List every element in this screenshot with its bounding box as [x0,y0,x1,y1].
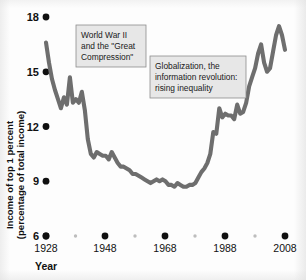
annotation-globalization-line2: information revolution: [155,72,237,82]
y-axis-title-line1: Income of top 1 percent [4,120,15,229]
x-minor-dot-1958 [133,234,136,237]
y-tick-label-12: 12 [27,121,39,133]
y-tick-label-9: 9 [33,175,39,187]
y-tick-dot-9 [43,178,50,185]
annotation-wwii: World War II and the "Great Compression" [76,25,146,67]
x-tick-dot-1928 [43,233,50,240]
income-share-line-chart: 18 15 12 9 6 1928 1948 1968 1988 2008 In… [0,0,306,280]
y-tick-label-6: 6 [33,230,39,242]
annotation-globalization: Globalization, the information revolutio… [150,56,246,98]
y-tick-label-15: 15 [27,66,39,78]
x-tick-label-2008: 2008 [273,242,297,254]
x-minor-dot-1998 [253,234,256,237]
x-axis-title: Year [35,260,57,272]
annotation-globalization-line1: Globalization, the [155,61,220,71]
x-tick-label-1988: 1988 [213,242,237,254]
y-axis-title: Income of top 1 percent (percentage of t… [4,111,26,239]
x-tick-dot-1988 [222,233,229,240]
x-minor-dot-1978 [193,234,196,237]
annotation-wwii-line2: and the "Great [81,41,136,51]
annotation-wwii-line3: Compression" [81,52,133,62]
x-tick-label-1968: 1968 [153,242,177,254]
x-tick-label-1928: 1928 [34,242,58,254]
y-tick-dot-12 [43,123,50,130]
x-tick-dot-1948 [102,233,109,240]
x-minor-dot-1938 [74,234,77,237]
chart-figure: 18 15 12 9 6 1928 1948 1968 1988 2008 In… [0,0,306,280]
annotation-wwii-line1: World War II [81,30,127,40]
x-axis-ticks: 1928 1948 1968 1988 2008 [34,233,297,254]
y-tick-label-18: 18 [27,11,39,23]
x-tick-dot-2008 [282,233,289,240]
y-tick-dot-18 [43,14,50,21]
y-axis-title-line2: (percentage of total income) [15,111,26,239]
annotation-globalization-line3: rising inequality [155,83,214,93]
x-tick-label-1948: 1948 [93,242,117,254]
x-tick-dot-1968 [162,233,169,240]
